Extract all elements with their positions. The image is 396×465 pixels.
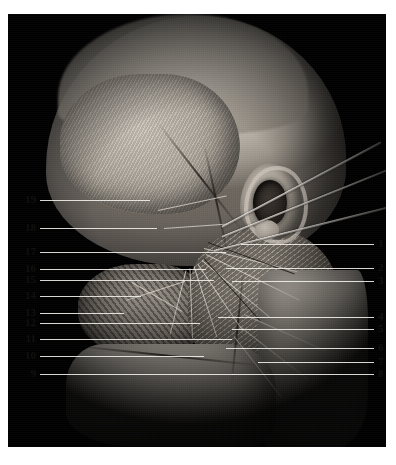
label-number-18: 18 <box>25 222 36 233</box>
label-number-5: 5 <box>378 323 384 334</box>
label-number-9: 9 <box>31 368 37 379</box>
label-number-14: 14 <box>25 290 36 301</box>
label-number-6: 6 <box>378 342 384 353</box>
leader-line-13 <box>40 313 124 314</box>
leader-line-2 <box>226 268 374 269</box>
leader-line-4 <box>218 317 374 318</box>
label-number-19: 19 <box>25 194 36 205</box>
leader-line-10 <box>40 356 204 357</box>
leader-line-16 <box>40 269 206 270</box>
photo-grain <box>8 14 386 447</box>
label-number-11: 11 <box>26 333 36 344</box>
leader-line-11 <box>40 339 232 340</box>
leader-line-18 <box>40 228 157 229</box>
label-number-10: 10 <box>25 350 36 361</box>
figure-page: 19181716151413121110912345678 <box>0 0 396 465</box>
label-number-15: 15 <box>25 274 36 285</box>
leader-line-8 <box>232 374 374 375</box>
dissection-photograph <box>8 14 386 447</box>
label-number-8: 8 <box>378 368 384 379</box>
leader-line-5 <box>232 329 374 330</box>
label-number-7: 7 <box>378 356 384 367</box>
leader-line-7 <box>258 362 374 363</box>
leader-line-12 <box>40 323 200 324</box>
leader-line-1 <box>241 244 374 245</box>
label-number-1: 1 <box>378 238 384 249</box>
label-number-12: 12 <box>25 317 36 328</box>
leader-line-6 <box>226 348 374 349</box>
label-number-17: 17 <box>25 246 36 257</box>
label-number-2: 2 <box>378 262 384 273</box>
leader-line-3 <box>232 281 374 282</box>
label-number-3: 3 <box>378 275 384 286</box>
leader-line-17 <box>40 252 226 253</box>
leader-line-19 <box>40 200 150 201</box>
leader-line-14 <box>40 296 141 297</box>
leader-line-9 <box>40 374 234 375</box>
leader-line-15 <box>40 280 214 281</box>
label-number-4: 4 <box>378 311 384 322</box>
